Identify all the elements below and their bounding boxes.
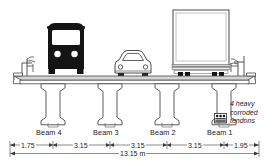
beam-label-4: Beam 4 — [36, 129, 62, 136]
corroded-tendons-note-line3: tendons — [230, 117, 255, 126]
beam-label-2: Beam 2 — [150, 129, 176, 136]
truck-box-trailer — [172, 10, 230, 78]
beam-tick-marks — [48, 123, 229, 127]
bus-silhouette — [47, 23, 85, 74]
dimension-label-left-overhang: 1.75 — [20, 142, 36, 149]
total-span-label: 13.15 m — [119, 150, 146, 157]
corroded-tendons-detail-icon — [215, 114, 227, 124]
bridge-cross-section-diagram: Beam 4 Beam 3 Beam 2 Beam 1 1.75 3.15 3.… — [0, 0, 269, 161]
left-railing-group — [22, 57, 35, 78]
dimension-label-beam3-beam2: 3.15 — [130, 142, 146, 149]
beam-label-1: Beam 1 — [207, 129, 233, 136]
beam-3-section — [98, 84, 122, 125]
corroded-tendons-note-line1: 4 heavy — [230, 100, 255, 109]
beam-2-section — [155, 84, 179, 125]
beam-label-3: Beam 3 — [93, 129, 119, 136]
dimension-label-right-overhang: 1.95 — [233, 142, 249, 149]
dimension-label-beam2-beam1: 3.15 — [187, 142, 203, 149]
right-railing-group — [230, 56, 244, 78]
corroded-tendons-note-line2: corroded — [230, 109, 258, 118]
car-outline — [115, 51, 151, 77]
beam-4-section — [41, 84, 65, 125]
dimension-label-beam4-beam3: 3.15 — [73, 142, 89, 149]
